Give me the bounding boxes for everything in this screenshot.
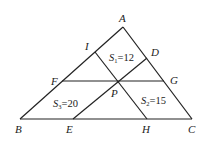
- area-label-s2: S2=15: [141, 95, 166, 107]
- label-c: C: [188, 123, 196, 135]
- label-f: F: [50, 75, 58, 87]
- segment-de: [73, 58, 147, 119]
- label-h: H: [141, 123, 151, 135]
- area-label-s1: S1=12: [109, 52, 134, 64]
- label-d: D: [150, 46, 159, 58]
- label-p: P: [110, 87, 118, 99]
- label-a: A: [118, 12, 126, 24]
- label-e: E: [65, 123, 73, 135]
- label-g: G: [170, 74, 178, 86]
- label-b: B: [15, 123, 22, 135]
- area-label-s3: S3=20: [53, 98, 78, 110]
- geometry-diagram: A B C I D F G P E H S1=12 S2=15 S3=20: [0, 0, 210, 142]
- label-i: I: [84, 40, 90, 52]
